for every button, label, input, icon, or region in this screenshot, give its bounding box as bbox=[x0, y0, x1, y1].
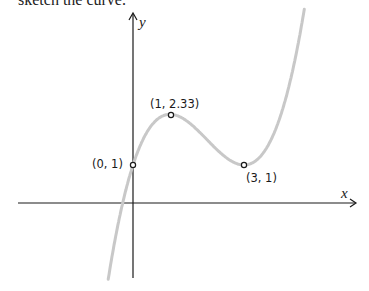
label-point-0-1: (0, 1) bbox=[92, 157, 123, 171]
x-axis-label: x bbox=[340, 185, 348, 201]
point-0-1 bbox=[130, 162, 135, 167]
point-3-1 bbox=[241, 162, 246, 167]
cubic-curve bbox=[108, 9, 304, 279]
label-point-3-1: (3, 1) bbox=[246, 171, 277, 185]
label-point-1-2.33: (1, 2.33) bbox=[150, 97, 199, 111]
point-1-2.33 bbox=[168, 112, 173, 117]
y-axis-label: y bbox=[137, 14, 146, 30]
curve-sketch: (0, 1) (1, 2.33) (3, 1) x y bbox=[0, 0, 369, 291]
